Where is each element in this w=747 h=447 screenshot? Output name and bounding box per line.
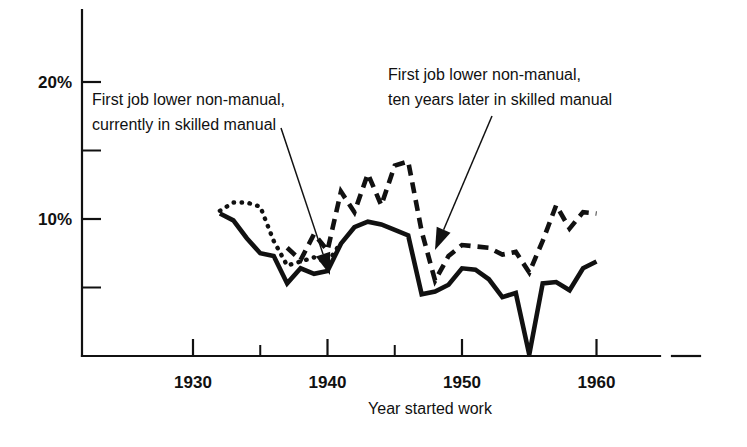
- y-axis-ticks: [82, 82, 101, 288]
- annotation-leader-line-left: [281, 128, 323, 254]
- x-tick-label: 1930: [174, 373, 212, 392]
- chart-page: 10%20% 1930194019501960 First job lower …: [0, 0, 747, 447]
- x-axis-ticks: [193, 339, 597, 356]
- annotation-left: First job lower non-manual, currently in…: [92, 91, 330, 275]
- annotation-left-line-1: First job lower non-manual,: [92, 91, 285, 108]
- chart-annotations: First job lower non-manual, currently in…: [92, 66, 612, 275]
- x-tick-label: 1940: [309, 373, 347, 392]
- annotation-right-line-1: First job lower non-manual,: [388, 66, 581, 83]
- x-axis-title: Year started work: [368, 400, 493, 417]
- y-axis-tick-labels: 10%20%: [38, 73, 72, 229]
- x-tick-label: 1950: [443, 373, 481, 392]
- annotation-right-line-2: ten years later in skilled manual: [388, 91, 612, 108]
- chart-axes: 10%20% 1930194019501960: [38, 10, 700, 392]
- x-axis-tick-labels: 1930194019501960: [174, 373, 615, 392]
- series-line-solid: [220, 214, 597, 355]
- annotation-arrowhead-right: [435, 227, 451, 250]
- x-tick-label: 1960: [578, 373, 616, 392]
- y-tick-label: 20%: [38, 73, 72, 92]
- annotation-leader-line-right: [444, 116, 492, 230]
- annotation-left-line-2: currently in skilled manual: [92, 116, 276, 133]
- y-tick-label: 10%: [38, 210, 72, 229]
- line-chart: 10%20% 1930194019501960 First job lower …: [0, 0, 747, 447]
- chart-series-group: [220, 161, 597, 354]
